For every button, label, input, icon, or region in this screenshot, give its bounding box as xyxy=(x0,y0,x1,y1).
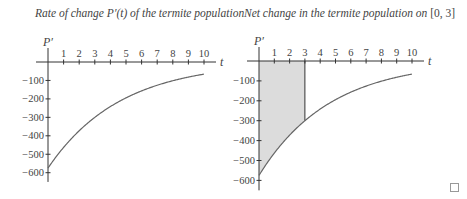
y-tick-label: −500 xyxy=(22,149,44,160)
y-axis-label: P′ xyxy=(42,35,53,49)
x-tick-label: 5 xyxy=(123,48,128,59)
y-tick-label: −300 xyxy=(22,112,44,123)
y-tick-label: −200 xyxy=(233,95,255,106)
x-tick-label: 4 xyxy=(318,47,324,58)
x-tick-label: 10 xyxy=(199,48,210,59)
y-tick-label: −100 xyxy=(233,75,255,86)
y-tick-label: −600 xyxy=(233,175,255,186)
curve-line xyxy=(48,74,204,168)
x-tick-label: 4 xyxy=(108,48,114,59)
right-chart-panel: Net change in the termite population on … xyxy=(233,0,467,199)
x-tick-label: 10 xyxy=(407,47,418,58)
left-chart: 12345678910−100−200−300−400−500−600P′t xyxy=(0,0,233,199)
right-chart: 12345678910−100−200−300−400−500−600P′t xyxy=(233,0,467,199)
checkbox-icon[interactable] xyxy=(450,183,459,192)
x-tick-label: 3 xyxy=(92,48,97,59)
y-tick-label: −100 xyxy=(22,75,44,86)
y-tick-label: −400 xyxy=(233,135,255,146)
x-tick-label: 7 xyxy=(155,48,160,59)
x-tick-label: 7 xyxy=(363,47,368,58)
x-axis-label: t xyxy=(220,55,224,69)
x-tick-label: 1 xyxy=(272,47,277,58)
x-axis-label: t xyxy=(428,54,432,68)
y-tick-label: −500 xyxy=(233,155,255,166)
y-tick-label: −300 xyxy=(233,115,255,126)
y-tick-label: −400 xyxy=(22,130,44,141)
x-tick-label: 1 xyxy=(61,48,66,59)
left-chart-panel: Rate of change P′(t) of the termite popu… xyxy=(0,0,233,199)
x-tick-label: 6 xyxy=(348,47,353,58)
x-tick-label: 8 xyxy=(379,47,384,58)
x-tick-label: 9 xyxy=(394,47,399,58)
shaded-area xyxy=(259,61,305,175)
y-tick-label: −200 xyxy=(22,93,44,104)
x-tick-label: 6 xyxy=(139,48,144,59)
x-tick-label: 5 xyxy=(333,47,338,58)
x-tick-label: 3 xyxy=(302,47,307,58)
x-tick-label: 2 xyxy=(287,47,292,58)
y-tick-label: −600 xyxy=(22,167,44,178)
y-axis-label: P′ xyxy=(253,34,264,48)
x-tick-label: 2 xyxy=(77,48,82,59)
x-tick-label: 8 xyxy=(170,48,175,59)
x-tick-label: 9 xyxy=(186,48,191,59)
